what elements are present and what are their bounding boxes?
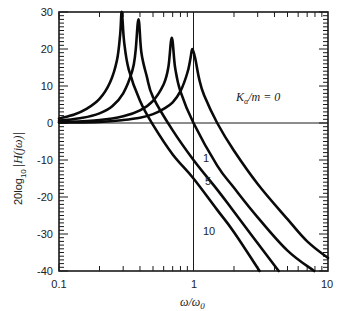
bode-magnitude-chart: 30 20 10 0 -10 -20 -30 -40 0.1 1 10 ω/ω0… [0,0,344,311]
ytick-label-m10: -10 [37,154,53,166]
svg-text:20log10|H(jω)|: 20log10|H(jω)| [11,132,28,205]
ytick-label-30: 30 [41,6,53,18]
y-axis-title: 20log10|H(jω)| [11,132,28,205]
ytick-label-10: 10 [41,80,53,92]
ytick-label-20: 20 [41,43,53,55]
ytick-label-0: 0 [47,117,53,129]
curve-label-5: 5 [205,175,211,187]
x-axis-title: ω/ω0 [180,295,205,311]
curve-label-1: 1 [203,152,209,164]
xtick-label-1: 1 [191,278,197,290]
xtick-label-0.1: 0.1 [51,278,66,290]
curve-label-10: 10 [203,225,215,237]
ytick-label-m30: -30 [37,228,53,240]
ytick-label-m20: -20 [37,191,53,203]
ytick-label-m40: -40 [37,265,53,277]
curve-label-k0: Kα/m = 0 [235,90,280,106]
xtick-label-10: 10 [321,278,333,290]
